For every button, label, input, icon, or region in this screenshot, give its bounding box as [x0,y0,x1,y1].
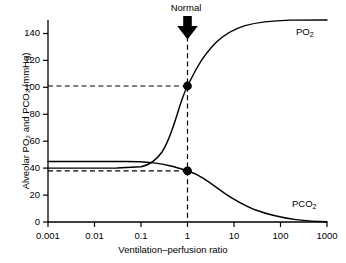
xtick-label-1: 1 [168,231,208,241]
y-axis-title-wrapper: Alveolar PO₂ and PCO₂ (mmHg) [15,21,33,221]
x-axis-ticks [48,222,327,227]
normal-annotation-label: Normal [160,2,212,13]
series-label-pco2: PCO2 [292,198,317,209]
xtick-label-0.01: 0.01 [75,231,115,241]
x-axis-title: Ventilation–perfusion ratio [0,244,346,255]
xtick-label-0.001: 0.001 [28,231,68,241]
series-label-pco2-subscript: 2 [313,202,317,211]
normal-po2-point [183,82,192,91]
chart-canvas [0,0,346,263]
series-label-po2-subscript: 2 [310,30,314,39]
xtick-label-1000: 1000 [307,231,346,241]
y-axis-title: Alveolar PO₂ and PCO₂ (mmHg) [20,53,31,190]
alveolar-gas-tension-chart: 140 120 100 80 60 40 20 0 0.001 0.01 0.1… [0,0,346,263]
normal-pco2-point [183,166,192,175]
xtick-label-10: 10 [214,231,254,241]
series-label-po2: PO2 [296,26,314,37]
series-label-pco2-text: PCO [292,198,313,209]
xtick-label-0.1: 0.1 [121,231,161,241]
down-arrow-icon [177,16,198,40]
xtick-label-100: 100 [261,231,301,241]
y-axis-ticks [43,34,48,223]
series-label-po2-text: PO [296,26,310,37]
